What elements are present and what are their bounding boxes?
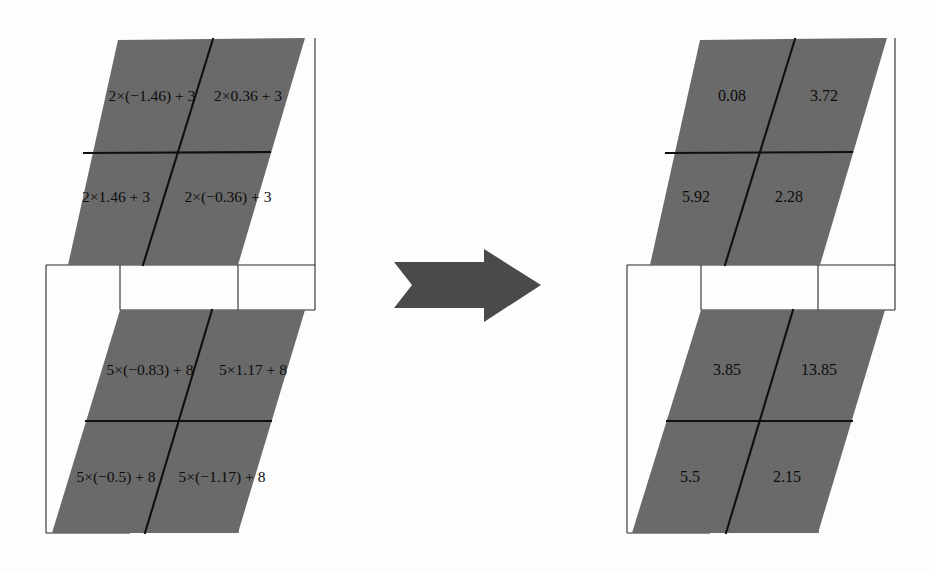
left-front-cell-top-left: 2×(−1.46) + 3 <box>109 87 196 105</box>
left-back-slab: 5×(−0.83) + 8 5×1.17 + 8 5×(−0.5) + 8 5×… <box>52 310 305 533</box>
left-back-cell-bottom-right: 5×(−1.17) + 8 <box>179 468 266 486</box>
diagram-canvas: 5×(−0.83) + 8 5×1.17 + 8 5×(−0.5) + 8 5×… <box>0 0 935 571</box>
left-front-cell-top-right: 2×0.36 + 3 <box>214 87 282 104</box>
right-front-slab: 0.08 3.72 5.92 2.28 <box>650 38 887 265</box>
right-front-cell-bottom-left: 5.92 <box>682 188 710 205</box>
left-back-cell-bottom-left: 5×(−0.5) + 8 <box>76 468 155 486</box>
left-back-cell-top-left: 5×(−0.83) + 8 <box>107 361 194 379</box>
transform-arrow <box>394 249 541 322</box>
right-front-cell-bottom-right: 2.28 <box>775 188 803 205</box>
right-front-cell-top-right: 3.72 <box>810 87 838 104</box>
left-front-cell-bottom-left: 2×1.46 + 3 <box>82 188 150 205</box>
right-back-cell-top-right: 13.85 <box>801 361 837 378</box>
right-group: 3.85 13.85 5.5 2.15 0.08 3.72 5.92 2.28 <box>627 38 895 533</box>
right-front-cell-top-left: 0.08 <box>718 87 746 104</box>
transform-arrow-shape <box>394 249 541 322</box>
left-back-cell-top-right: 5×1.17 + 8 <box>219 361 287 378</box>
left-group: 5×(−0.83) + 8 5×1.17 + 8 5×(−0.5) + 8 5×… <box>46 38 315 533</box>
right-back-cell-top-left: 3.85 <box>713 361 741 378</box>
left-front-slab: 2×(−1.46) + 3 2×0.36 + 3 2×1.46 + 3 2×(−… <box>68 38 305 265</box>
right-back-slab: 3.85 13.85 5.5 2.15 <box>632 310 885 533</box>
right-back-cell-bottom-left: 5.5 <box>680 468 700 485</box>
diagram-root: 5×(−0.83) + 8 5×1.17 + 8 5×(−0.5) + 8 5×… <box>0 0 935 571</box>
right-back-cell-bottom-right: 2.15 <box>773 468 801 485</box>
left-front-cell-bottom-right: 2×(−0.36) + 3 <box>185 188 272 206</box>
